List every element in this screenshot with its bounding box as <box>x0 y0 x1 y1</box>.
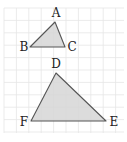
triangle-def: D E F <box>20 57 119 129</box>
vertex-label-e: E <box>110 115 119 129</box>
triangle-abc: A B C <box>20 6 77 54</box>
triangle-def-shape <box>31 73 106 121</box>
vertex-label-d: D <box>51 57 61 71</box>
vertex-label-b: B <box>20 40 29 54</box>
vertex-label-c: C <box>67 40 76 54</box>
triangle-abc-shape <box>30 22 65 47</box>
grid-diagram: A B C D E F <box>0 0 127 142</box>
vertex-label-a: A <box>51 6 61 20</box>
vertex-label-f: F <box>20 115 28 129</box>
